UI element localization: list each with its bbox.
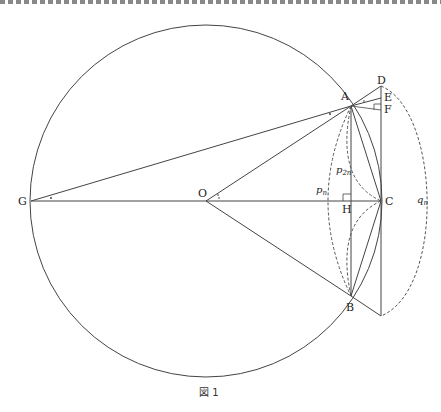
label-d: D bbox=[377, 74, 386, 87]
angle-mark-o2 bbox=[218, 197, 220, 199]
label-g: G bbox=[18, 195, 27, 208]
line-ga bbox=[31, 106, 351, 201]
angle-mark-ae bbox=[363, 100, 365, 102]
line-ad bbox=[351, 86, 381, 106]
line-bc bbox=[351, 201, 381, 296]
line-oa bbox=[206, 106, 351, 201]
label-b: B bbox=[346, 301, 354, 314]
label-pn: pn bbox=[316, 184, 327, 197]
label-f: F bbox=[384, 103, 392, 116]
label-a: A bbox=[340, 90, 350, 103]
figure-caption: 図 1 bbox=[199, 387, 219, 398]
label-o: O bbox=[198, 187, 207, 200]
label-qn: qn bbox=[417, 194, 428, 207]
right-angle-h bbox=[343, 194, 351, 201]
line-ob bbox=[206, 201, 351, 296]
line-ae bbox=[351, 98, 381, 106]
angle-mark-g bbox=[50, 197, 52, 199]
line-b-bottom bbox=[351, 296, 381, 316]
geometry-diagram: A B C D E F G H O pn p2n qn 図 1 bbox=[0, 0, 441, 412]
label-p2n: p2n bbox=[336, 164, 352, 177]
angle-mark-o1 bbox=[217, 194, 219, 196]
label-c: C bbox=[385, 195, 393, 208]
label-h: H bbox=[342, 203, 352, 216]
line-ac bbox=[351, 106, 381, 201]
angle-mark-a bbox=[329, 113, 331, 115]
